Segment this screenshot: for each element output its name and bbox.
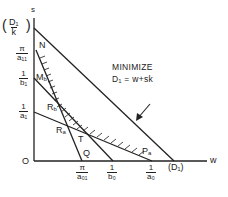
minimize-direction-arrow [136, 104, 150, 121]
w-axis-label: w [210, 156, 217, 165]
point-pa: Pa [142, 147, 151, 156]
x-tick-1-over-a0: 1 a₀ [146, 164, 156, 181]
paren-right: ) [26, 18, 31, 32]
point-ra: Ra [56, 126, 66, 135]
constraint-line-b [34, 78, 113, 161]
y-tick-d1-over-k: D₁ k [8, 18, 20, 37]
point-t: T [78, 135, 84, 144]
constraint-line-a [34, 112, 152, 161]
point-n: N [39, 41, 46, 50]
point-mb: Mb [36, 73, 47, 82]
s-axis-label: s [31, 6, 35, 14]
diagram-title: MINIMIZE [112, 62, 153, 72]
cost-minimization-diagram: s w O ( D₁ k ) π a₁₁ 1 b₁ 1 a₁ π a₀₁ 1 b… [0, 0, 228, 197]
paren-left: ( [2, 18, 7, 32]
point-q: Q [83, 149, 90, 158]
objective-function: D₁ = w+sk [112, 74, 153, 84]
x-tick-pi-over-a01: π a₀₁ [76, 164, 88, 181]
point-rb: Rb [47, 103, 57, 112]
y-tick-1-over-a1: 1 a₁ [19, 103, 28, 120]
x-tick-d1: (D₁) [168, 163, 184, 172]
origin-label: O [22, 157, 29, 166]
y-tick-1-over-b1: 1 b₁ [19, 70, 28, 87]
y-tick-pi-over-a11: π a₁₁ [16, 45, 28, 62]
x-tick-1-over-b0: 1 b₀ [107, 164, 117, 181]
